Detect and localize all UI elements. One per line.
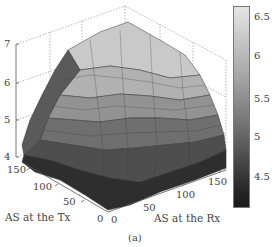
z-tick-7: 7 bbox=[4, 39, 10, 49]
rx-tick-0: 0 bbox=[111, 215, 117, 225]
colorbar-tick-6: 6 bbox=[254, 50, 260, 61]
tx-tick-100: 100 bbox=[33, 182, 52, 192]
tx-tick-0: 0 bbox=[97, 214, 103, 224]
colorbar bbox=[233, 6, 250, 208]
z-tick-6: 6 bbox=[4, 78, 10, 88]
figure-caption: (a) bbox=[128, 232, 142, 243]
colorbar-tick-6.5: 6.5 bbox=[254, 11, 270, 22]
colorbar-tick-5.5: 5.5 bbox=[254, 93, 270, 104]
tx-tick-50: 50 bbox=[63, 197, 76, 207]
z-tick-4: 4 bbox=[4, 152, 10, 162]
colorbar-tick-5: 5 bbox=[254, 131, 260, 142]
surface-mesh bbox=[22, 22, 226, 210]
z-tick-5: 5 bbox=[4, 115, 10, 125]
tx-tick-150: 150 bbox=[7, 165, 26, 175]
y-axis-title: AS at the Tx bbox=[5, 212, 70, 223]
rx-tick-100: 100 bbox=[176, 190, 195, 200]
colorbar-tick-4.5: 4.5 bbox=[254, 171, 270, 182]
rx-tick-150: 150 bbox=[208, 177, 227, 187]
x-axis-title: AS at the Rx bbox=[154, 213, 220, 224]
